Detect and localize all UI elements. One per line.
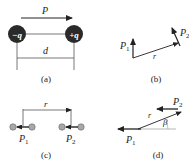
caption-a: (a) bbox=[41, 74, 51, 84]
dipole-figure: P d −q +q (a) P1 P2 r (b) r bbox=[0, 0, 189, 167]
caption-c: (c) bbox=[41, 150, 51, 160]
p2-label: P2 bbox=[179, 27, 189, 40]
negative-charge-label: −q bbox=[12, 30, 22, 40]
panel-a: P d −q +q (a) bbox=[8, 5, 83, 84]
angle-label: β bbox=[162, 117, 168, 127]
p2-label: P2 bbox=[65, 133, 76, 146]
panel-c: r P1 P2 (c) bbox=[10, 99, 84, 160]
caption-b: (b) bbox=[151, 74, 162, 84]
distance-label: d bbox=[43, 45, 49, 56]
panel-b: P1 P2 r (b) bbox=[119, 27, 189, 84]
p1-label: P1 bbox=[18, 133, 29, 146]
r-label: r bbox=[44, 99, 48, 109]
caption-d: (d) bbox=[153, 150, 164, 160]
p2-label: P2 bbox=[172, 96, 183, 109]
p1-label: P1 bbox=[125, 134, 136, 147]
r-vector bbox=[138, 112, 181, 129]
moment-label: P bbox=[41, 5, 48, 16]
panel-d: P2 r β P1 (d) bbox=[118, 96, 183, 160]
p1-label: P1 bbox=[119, 40, 130, 53]
positive-charge-label: +q bbox=[69, 30, 79, 40]
dipole-p1 bbox=[10, 124, 35, 130]
r-label: r bbox=[148, 111, 152, 120]
r-label: r bbox=[153, 52, 157, 61]
dipole-p2 bbox=[59, 124, 84, 130]
